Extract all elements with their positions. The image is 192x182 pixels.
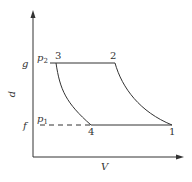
pressure-label-p2: p2 xyxy=(37,52,48,65)
process-2-1 xyxy=(115,63,172,125)
pressure-label-p1: p1 xyxy=(37,113,48,126)
point-label-3: 3 xyxy=(55,50,61,61)
y-axis-arrow-icon xyxy=(31,10,36,18)
x-axis-arrow-icon xyxy=(176,155,184,160)
tick-label-f: f xyxy=(22,120,29,131)
point-label-2: 2 xyxy=(110,50,116,61)
p2-subscript: 2 xyxy=(43,57,47,65)
axes xyxy=(31,10,185,160)
y-axis-label: p xyxy=(8,91,19,98)
pv-diagram: p V g p2 f p1 3 2 4 1 xyxy=(0,0,192,182)
point-label-1: 1 xyxy=(169,126,175,137)
p1-subscript: 1 xyxy=(43,118,47,126)
point-label-4: 4 xyxy=(88,126,94,137)
tick-label-g: g xyxy=(22,58,28,69)
x-axis-label: V xyxy=(101,161,110,172)
process-4-3 xyxy=(56,63,91,125)
